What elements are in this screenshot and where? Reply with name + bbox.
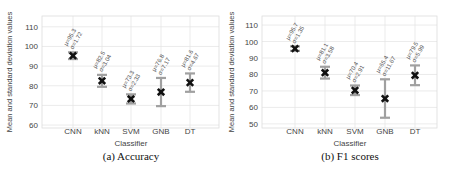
accuracy-caption: (a) Accuracy: [103, 150, 160, 162]
y-tick-label: 80: [249, 70, 258, 79]
x-tick-label: kNN: [94, 127, 110, 136]
y-tick-label: 50: [249, 120, 258, 129]
stat-annotation: μ=65.4σ=11.67: [375, 51, 397, 77]
y-axis-label: Mean and standard deviation values: [227, 12, 236, 133]
y-tick-label: 100: [25, 42, 39, 51]
y-tick-label: 90: [29, 62, 38, 71]
x-tick-label: SVM: [346, 127, 364, 136]
x-tick-label: GNB: [152, 127, 169, 136]
stat-annotation: μ=73.3σ=2.33: [121, 69, 142, 92]
y-tick-label: 60: [249, 103, 258, 112]
y-tick-label: 80: [29, 82, 38, 91]
stat-annotation: μ=76.8σ=7.17: [151, 53, 172, 76]
y-tick-label: 60: [29, 121, 38, 130]
stat-annotation: μ=79.5σ=5.99: [405, 40, 426, 63]
x-tick-label: DT: [410, 127, 421, 136]
accuracy-chart: 60708090100110Mean and standard deviatio…: [0, 0, 225, 173]
x-axis-label: Classifier: [334, 139, 367, 148]
f1-chart-panel: 5060708090100110Mean and standard deviat…: [225, 0, 451, 173]
x-axis-label: Classifier: [115, 139, 148, 148]
y-tick-label: 90: [249, 54, 258, 63]
stat-annotation: μ=81.6σ=4.67: [180, 48, 201, 71]
x-tick-label: SVM: [122, 127, 140, 136]
stat-annotation: μ=81.1σ=3.58: [315, 41, 336, 64]
f1-caption: (b) F1 scores: [321, 150, 378, 162]
accuracy-chart-panel: 60708090100110Mean and standard deviatio…: [0, 0, 225, 173]
y-tick-label: 110: [245, 21, 258, 30]
y-tick-label: 100: [245, 38, 259, 47]
x-tick-label: CNN: [64, 127, 82, 136]
x-tick-label: kNN: [317, 127, 333, 136]
y-tick-label: 70: [249, 87, 258, 96]
y-axis-label: Mean and standard deviation values: [5, 12, 14, 133]
x-tick-label: DT: [185, 127, 196, 136]
stat-annotation: μ=95.7σ=1.35: [285, 21, 306, 44]
x-tick-label: CNN: [286, 127, 304, 136]
x-tick-label: GNB: [376, 127, 393, 136]
f1-chart: 5060708090100110Mean and standard deviat…: [225, 0, 451, 173]
y-tick-label: 70: [29, 101, 38, 110]
stat-annotation: μ=70.4σ=2.91: [345, 60, 366, 83]
y-tick-label: 110: [25, 23, 38, 32]
stat-annotation: μ=82.5σ=3.04: [92, 49, 113, 72]
